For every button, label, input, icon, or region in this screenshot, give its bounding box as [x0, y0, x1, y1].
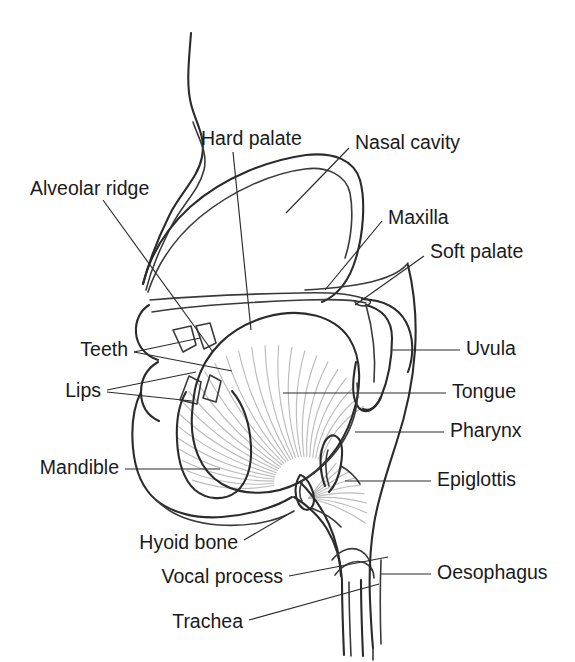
label-lips: Lips	[65, 379, 101, 401]
vocal-tract-illustration: Hard palateNasal cavityAlveolar ridgeMax…	[0, 0, 575, 662]
leader-lips	[107, 372, 196, 390]
lower-lip-outline	[141, 362, 159, 421]
tongue-fiber	[189, 392, 279, 469]
label-trachea: Trachea	[172, 610, 243, 632]
vocal-tract-diagram: Hard palateNasal cavityAlveolar ridgeMax…	[0, 0, 575, 662]
leader-maxilla	[325, 221, 382, 290]
label-mandible: Mandible	[40, 456, 119, 478]
soft-palate-lower-outline	[353, 305, 392, 411]
label-vocal-process: Vocal process	[162, 565, 284, 587]
upper-tooth-outline-2	[196, 323, 216, 349]
leader-hyoid-bone	[244, 515, 287, 540]
jaw-underside-outline	[156, 500, 294, 525]
label-oesophagus: Oesophagus	[437, 561, 548, 583]
upper-lip-outline	[136, 305, 158, 360]
label-hyoid-bone: Hyoid bone	[139, 531, 238, 553]
label-maxilla: Maxilla	[388, 206, 449, 228]
trachea-inner-wall-outline	[349, 582, 351, 656]
soft-palate-upper-outline	[362, 299, 412, 372]
trachea-back-wall-outline	[361, 580, 363, 656]
lower-tooth-outline-2	[203, 375, 221, 402]
leader-trachea	[249, 584, 379, 620]
leader-teeth-2	[134, 338, 200, 352]
label-nasal-cavity: Nasal cavity	[355, 131, 460, 153]
label-uvula: Uvula	[466, 337, 516, 359]
tongue-fiber	[302, 356, 316, 457]
label-alveolar-ridge: Alveolar ridge	[30, 177, 149, 199]
hard-palate-bottom-edge	[152, 300, 366, 312]
pharynx-back-wall-outline	[370, 265, 416, 648]
label-epiglottis: Epiglottis	[437, 468, 516, 490]
label-tongue: Tongue	[452, 380, 516, 402]
uvula-tip-outline	[363, 397, 381, 410]
label-pharynx: Pharynx	[450, 419, 522, 441]
tongue-muscle-fibers	[178, 346, 364, 489]
hyoid-bone-inner-outline	[300, 482, 302, 501]
leader-alveolar-ridge	[103, 200, 213, 352]
maxilla-outline	[305, 263, 408, 290]
tongue-fiber	[184, 403, 278, 471]
face-profile-outline	[143, 33, 203, 284]
tongue-fiber	[196, 381, 280, 467]
nasal-cavity-inner-outline	[148, 168, 352, 292]
oesophagus-outline	[380, 560, 381, 644]
nasal-cavity-outer-outline	[143, 154, 363, 302]
trachea-front-wall-outline	[342, 580, 344, 655]
label-soft-palate: Soft palate	[430, 240, 523, 262]
label-hard-palate: Hard palate	[201, 127, 302, 149]
hyoid-radiating-fibers	[309, 463, 367, 523]
pharynx-back-inner-outline	[366, 305, 375, 382]
label-teeth: Teeth	[80, 338, 128, 360]
leader-lips-2	[107, 392, 192, 401]
tongue-fiber	[296, 351, 305, 457]
